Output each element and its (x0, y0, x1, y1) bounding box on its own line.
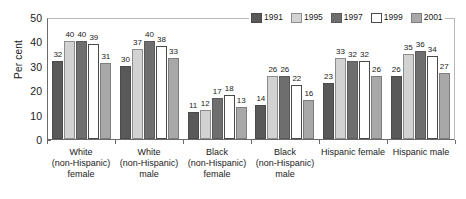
bar-1999: 22 (291, 85, 302, 139)
x-axis-label-line: (non-Hispanic) (47, 158, 115, 169)
legend-item-1999: 1999 (371, 13, 403, 23)
legend-item-1991: 1991 (251, 13, 283, 23)
bar-1991: 30 (120, 66, 131, 139)
bar-1991: 32 (52, 61, 63, 139)
bar-value-label: 14 (256, 95, 265, 103)
bar-group: 2635363427 (386, 19, 454, 139)
bar-1999: 34 (427, 56, 438, 139)
x-axis-label: Black(non-Hispanic)female (183, 147, 251, 195)
x-tick-mark (115, 140, 116, 144)
x-axis-label: Hispanic female (319, 147, 387, 195)
bar-value-label: 33 (169, 48, 178, 56)
bar-1997: 32 (347, 61, 358, 139)
bar-value-label: 12 (201, 100, 210, 108)
x-tick-mark (251, 140, 252, 144)
y-tick-label: 20 (8, 86, 42, 97)
legend-swatch-1995 (291, 13, 302, 23)
bar-value-label: 27 (440, 63, 449, 71)
x-axis-label-line: Black (251, 147, 319, 158)
plot-area: 3240403931303740383311121718131426262216… (47, 18, 455, 140)
x-tick-mark (455, 140, 456, 144)
bar-1995: 37 (132, 49, 143, 139)
bar-1999: 39 (88, 44, 99, 139)
legend-swatch-2001 (411, 13, 422, 23)
bar-value-label: 36 (416, 41, 425, 49)
x-axis-label-line: female (183, 169, 251, 180)
y-tick-label: 10 (8, 111, 42, 122)
x-axis-label-line: (non-Hispanic) (183, 158, 251, 169)
bar-1995: 12 (200, 110, 211, 139)
bar-value-label: 30 (121, 56, 130, 64)
bar-1991: 11 (188, 112, 199, 139)
bar-value-label: 33 (336, 48, 345, 56)
legend-label: 1999 (384, 13, 403, 22)
x-axis-label-line: White (115, 147, 183, 158)
x-tick-mark (47, 140, 48, 144)
bar-value-label: 26 (372, 66, 381, 74)
x-axis-label: Black(non-Hispanic)male (251, 147, 319, 195)
bar-chart: Per cent 01020304050 3240403931303740383… (0, 0, 466, 199)
x-tick-mark (319, 140, 320, 144)
bar-group: 3240403931 (48, 19, 116, 139)
legend-label: 2001 (424, 13, 443, 22)
legend-label: 1991 (264, 13, 283, 22)
y-tick-label: 50 (8, 13, 42, 24)
bar-1995: 40 (64, 41, 75, 139)
bar-value-label: 40 (65, 31, 74, 39)
bar-value-label: 32 (53, 51, 62, 59)
x-axis-ticks (47, 140, 455, 145)
bar-group: 1112171813 (183, 19, 251, 139)
bar-value-label: 13 (237, 97, 246, 105)
bar-value-label: 11 (189, 102, 197, 110)
x-tick-mark (183, 140, 184, 144)
bar-1997: 26 (279, 76, 290, 139)
bar-value-label: 35 (404, 44, 413, 52)
x-axis-label: White(non-Hispanic)male (115, 147, 183, 195)
x-axis-labels: White(non-Hispanic)femaleWhite(non-Hispa… (47, 147, 455, 195)
bar-1999: 18 (224, 95, 235, 139)
x-axis-label-line: Hispanic female (319, 147, 387, 158)
bar-1999: 38 (156, 46, 167, 139)
bar-1997: 40 (144, 41, 155, 139)
bar-2001: 16 (303, 100, 314, 139)
bar-1995: 33 (335, 58, 346, 139)
x-axis-label: White(non-Hispanic)female (47, 147, 115, 195)
bar-2001: 33 (168, 58, 179, 139)
bar-1997: 40 (76, 41, 87, 139)
x-axis-label-line: Black (183, 147, 251, 158)
bar-1995: 26 (267, 76, 278, 139)
bar-1991: 26 (391, 76, 402, 139)
bar-1997: 36 (415, 51, 426, 139)
bar-value-label: 31 (101, 53, 110, 61)
legend-item-2001: 2001 (411, 13, 443, 23)
x-axis-label-line: White (47, 147, 115, 158)
bar-group: 2333323226 (319, 19, 387, 139)
bar-1995: 35 (403, 54, 414, 139)
legend-item-1995: 1995 (291, 13, 323, 23)
bar-value-label: 22 (292, 75, 301, 83)
bar-1991: 23 (323, 83, 334, 139)
legend-label: 1995 (304, 13, 323, 22)
legend-label: 1997 (344, 13, 363, 22)
bar-groups: 3240403931303740383311121718131426262216… (48, 19, 454, 139)
legend-item-1997: 1997 (331, 13, 363, 23)
bar-value-label: 32 (348, 51, 357, 59)
bar-value-label: 17 (213, 88, 222, 96)
bar-value-label: 23 (324, 73, 333, 81)
x-axis-label-line: Hispanic male (387, 147, 455, 158)
bar-2001: 27 (439, 73, 450, 139)
bar-value-label: 40 (145, 31, 154, 39)
y-axis-ticks: 01020304050 (4, 0, 42, 199)
x-axis-label-line: male (251, 169, 319, 180)
bar-value-label: 18 (225, 85, 234, 93)
bar-value-label: 39 (89, 34, 98, 42)
y-tick-label: 30 (8, 62, 42, 73)
bar-2001: 13 (236, 107, 247, 139)
bar-group: 3037403833 (116, 19, 184, 139)
y-tick-label: 0 (8, 135, 42, 146)
x-axis-label-line: (non-Hispanic) (251, 158, 319, 169)
bar-1991: 14 (255, 105, 266, 139)
y-tick-label: 40 (8, 37, 42, 48)
bar-1999: 32 (359, 61, 370, 139)
x-tick-mark (387, 140, 388, 144)
